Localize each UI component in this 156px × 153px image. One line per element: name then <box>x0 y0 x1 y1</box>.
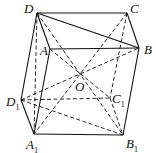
label-B1: B1 <box>126 137 138 153</box>
label-C1: C1 <box>112 92 125 109</box>
geometry-diagram: D C A B O D1 C1 A1 B1 <box>0 0 156 153</box>
label-A: A <box>40 44 48 57</box>
label-A1: A1 <box>26 138 38 153</box>
label-B: B <box>144 43 152 56</box>
label-C: C <box>130 2 139 15</box>
parallelepiped-figure <box>0 0 156 153</box>
label-D: D <box>24 2 33 15</box>
label-D1: D1 <box>6 95 19 112</box>
label-O: O <box>75 80 84 93</box>
